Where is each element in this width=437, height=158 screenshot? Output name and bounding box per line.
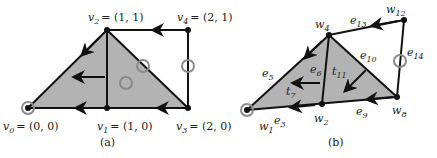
vertex-label-w12: w12 <box>386 3 406 18</box>
vertex-label-v1: v1= (1, 0) <box>97 120 153 135</box>
vertex-label-v2: v2= (1, 1) <box>88 11 144 26</box>
panel-b: w1 w2 w4 w8 w12 e3 e5 e6 e9 e10 e13 e14 … <box>241 3 424 149</box>
edge-label-e14: e14 <box>407 46 424 61</box>
vertex-label-v3: v3= (2, 0) <box>176 120 232 135</box>
panel-a: v0= (0, 0) v1= (1, 0) v2= (1, 1) v3= (2,… <box>3 11 233 149</box>
edge-label-e9: e9 <box>356 105 368 120</box>
vertex-label-w4: w4 <box>315 18 330 33</box>
edge-label-e3: e3 <box>274 114 286 129</box>
caption-a: (a) <box>100 136 115 149</box>
edge-label-e5: e5 <box>262 67 274 82</box>
caption-b: (b) <box>328 136 344 149</box>
vertex-label-w2: w2 <box>314 112 329 127</box>
diagram-canvas: v0= (0, 0) v1= (1, 0) v2= (1, 1) v3= (2,… <box>0 0 437 158</box>
edge-label-e13: e13 <box>350 14 367 29</box>
edge-label-e10: e10 <box>360 49 377 64</box>
vertex-label-v4: v4= (2, 1) <box>177 11 233 26</box>
vertex-label-w1: w1 <box>259 120 274 135</box>
vertex-label-v0: v0= (0, 0) <box>3 120 59 135</box>
vertex-label-w8: w8 <box>392 104 407 119</box>
